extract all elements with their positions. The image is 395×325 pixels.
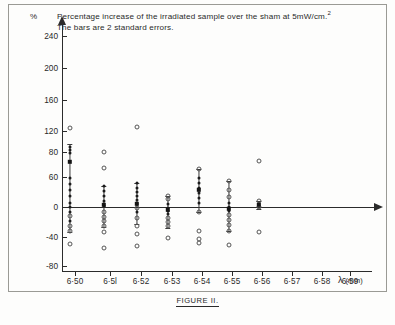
data-point xyxy=(136,182,139,185)
chart-title-text: Percentage increase of the irradiated sa… xyxy=(57,12,327,21)
data-point xyxy=(102,224,107,229)
data-point xyxy=(68,214,73,219)
y-tick-mark xyxy=(62,237,67,238)
chart-subtitle: The bars are 2 standard errors. xyxy=(57,23,174,32)
figure-caption: FIGURE II. xyxy=(0,296,395,305)
x-tick-label: 6·55 xyxy=(224,277,240,286)
mean-marker xyxy=(257,203,261,207)
x-axis-baseline xyxy=(62,271,372,272)
mean-marker xyxy=(102,203,106,207)
x-tick-mark xyxy=(262,271,263,276)
data-point xyxy=(69,195,72,198)
data-point xyxy=(135,244,140,249)
data-point xyxy=(102,230,107,235)
mean-marker xyxy=(166,208,170,212)
data-point xyxy=(197,210,202,215)
data-point xyxy=(69,183,72,186)
x-tick-label: 6·53 xyxy=(164,277,180,286)
x-axis-zero-line xyxy=(62,207,374,208)
data-point xyxy=(166,197,171,202)
y-tick-mark xyxy=(62,152,67,153)
y-tick-label: 120 xyxy=(44,126,58,136)
y-tick-label: 60 xyxy=(49,172,58,182)
y-tick-label: 160 xyxy=(44,95,58,105)
chart-title-superscript: 2 xyxy=(327,10,331,16)
data-point xyxy=(198,177,201,180)
x-axis-arrow xyxy=(374,203,383,211)
mean-marker xyxy=(227,207,231,211)
x-tick-label: 6·50 xyxy=(67,277,83,286)
y-tick-label: 200 xyxy=(44,63,58,73)
data-point xyxy=(135,232,140,237)
x-axis-unit: (mm) xyxy=(345,276,362,285)
y-tick-label: 80 xyxy=(49,147,58,157)
data-point xyxy=(227,188,232,193)
data-point xyxy=(136,195,139,198)
x-tick-label: 6·54 xyxy=(194,277,210,286)
x-tick-mark xyxy=(292,271,293,276)
data-point xyxy=(227,243,232,248)
y-tick-label: 0 xyxy=(53,202,58,212)
chart-title: Percentage increase of the irradiated sa… xyxy=(57,8,392,33)
data-point xyxy=(102,166,107,171)
x-tick-mark xyxy=(110,271,111,276)
data-point xyxy=(69,189,72,192)
data-point xyxy=(69,220,72,223)
y-tick-mark xyxy=(62,131,67,132)
data-point xyxy=(68,126,73,131)
y-tick-mark xyxy=(62,100,67,101)
y-tick-label: -40 xyxy=(46,232,58,242)
x-tick-label: 6·57 xyxy=(284,277,300,286)
data-point xyxy=(166,236,171,241)
mean-marker xyxy=(68,160,72,164)
y-tick-mark xyxy=(62,266,67,267)
data-point xyxy=(198,202,201,205)
data-point xyxy=(227,179,232,184)
data-point xyxy=(198,197,201,200)
data-point xyxy=(68,242,73,247)
y-tick-mark xyxy=(62,68,67,69)
data-point xyxy=(227,195,232,200)
data-point xyxy=(198,182,201,185)
data-point xyxy=(197,167,202,172)
x-tick-label: 6·56 xyxy=(254,277,270,286)
data-point xyxy=(103,185,106,188)
x-axis-symbol: λ xyxy=(338,274,343,285)
y-tick-mark xyxy=(62,177,67,178)
x-tick-mark xyxy=(141,271,142,276)
x-tick-mark xyxy=(172,271,173,276)
data-point xyxy=(135,125,140,130)
x-tick-label: 6·52 xyxy=(133,277,149,286)
figure-frame xyxy=(8,4,387,292)
y-axis-unit-label: % xyxy=(30,12,37,21)
data-point xyxy=(136,191,139,194)
data-point xyxy=(136,187,139,190)
data-point xyxy=(136,211,139,214)
x-axis-title: λ (mm) xyxy=(338,274,363,285)
data-point xyxy=(257,159,262,164)
y-axis-line xyxy=(62,24,63,271)
x-tick-mark xyxy=(322,271,323,276)
figure-container: % Percentage increase of the irradiated … xyxy=(0,0,395,325)
data-point xyxy=(166,224,171,229)
mean-marker xyxy=(135,202,139,206)
data-point xyxy=(228,202,231,205)
data-point xyxy=(69,206,72,209)
x-tick-mark xyxy=(202,271,203,276)
data-point xyxy=(257,230,262,235)
x-tick-mark xyxy=(232,271,233,276)
figure-caption-text: FIGURE II. xyxy=(176,296,218,307)
data-point xyxy=(102,150,107,155)
data-point xyxy=(197,229,202,234)
data-point xyxy=(68,229,73,234)
data-point xyxy=(69,177,72,180)
x-tick-label: 6·5l xyxy=(103,277,117,286)
data-point xyxy=(103,190,106,193)
data-point xyxy=(102,246,107,251)
data-point xyxy=(135,216,140,221)
data-point xyxy=(135,224,140,229)
y-tick-label: 240 xyxy=(44,31,58,41)
data-point xyxy=(197,241,202,246)
y-tick-mark xyxy=(62,36,67,37)
x-tick-label: 6·58 xyxy=(314,277,330,286)
